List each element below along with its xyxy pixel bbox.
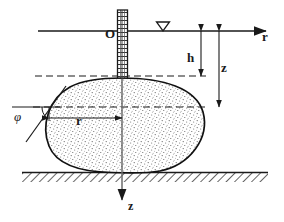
h-dimension-label: h <box>187 51 194 64</box>
ground-hatch-strip <box>22 173 268 183</box>
r-dimension-label: r <box>76 114 82 127</box>
origin-label: O <box>105 27 115 40</box>
diagram-canvas: O r h z r φ z <box>0 0 284 222</box>
diagram-vector-layer <box>0 0 284 222</box>
injection-bulb <box>46 78 205 173</box>
water-table-triangle-icon <box>157 22 170 31</box>
r-axis-label: r <box>262 30 268 43</box>
borehole-pipe <box>118 10 128 78</box>
phi-angle-label: φ <box>14 110 21 123</box>
z-dimension-label: z <box>221 61 227 74</box>
z-axis-label: z <box>128 200 133 212</box>
